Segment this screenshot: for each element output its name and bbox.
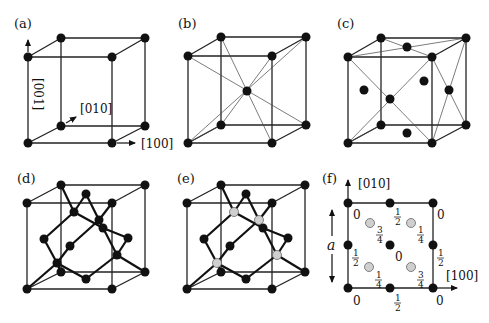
svg-text:1: 1 <box>353 248 359 258</box>
lattice-constant-label: a <box>327 237 335 253</box>
frac-half-top: 1 2 <box>394 207 401 227</box>
panel-label-c: (c) <box>337 16 354 31</box>
axis-label-001: [001] <box>31 78 45 110</box>
panel-c-fcc: (c) <box>337 16 471 148</box>
axis-label-100: [100] <box>141 137 173 151</box>
frac-quarter-bl: 1 4 <box>375 270 382 290</box>
frac-half-left: 1 2 <box>352 248 359 268</box>
svg-text:4: 4 <box>376 280 382 290</box>
svg-text:3: 3 <box>418 270 424 280</box>
panel-b-bcc: (b) <box>178 16 311 148</box>
crystal-structures-figure: (a) [010] [100] [001] (b) <box>0 0 489 323</box>
panel-label-d: (d) <box>17 171 35 186</box>
panel-label-f: (f) <box>322 171 337 186</box>
svg-text:1: 1 <box>438 248 444 258</box>
axis-label-100-f: [100] <box>446 269 478 283</box>
svg-text:0: 0 <box>353 208 361 222</box>
frac-three-quarter-tl: 3 4 <box>376 225 383 245</box>
axis-label-010: [010] <box>80 102 112 116</box>
svg-text:0: 0 <box>395 250 403 264</box>
panel-label-a: (a) <box>14 16 32 31</box>
panel-e-zincblende: (e) <box>177 171 310 294</box>
svg-text:1: 1 <box>395 293 401 303</box>
frac-half-bottom: 1 2 <box>394 293 401 313</box>
body-center-atom <box>243 87 252 96</box>
panel-a-simple-cubic: (a) [010] [100] [001] <box>14 16 173 151</box>
frac-half-right: 1 2 <box>437 248 444 268</box>
axis-label-010-f: [010] <box>358 177 390 191</box>
svg-text:1: 1 <box>376 270 382 280</box>
atoms-c <box>344 34 471 148</box>
svg-text:1: 1 <box>418 225 424 235</box>
svg-text:2: 2 <box>438 258 444 268</box>
svg-text:4: 4 <box>418 235 424 245</box>
svg-text:0: 0 <box>437 208 445 222</box>
svg-text:0: 0 <box>353 294 361 308</box>
svg-text:3: 3 <box>377 225 383 235</box>
svg-text:4: 4 <box>418 280 424 290</box>
panel-label-b: (b) <box>178 16 196 31</box>
svg-text:1: 1 <box>395 207 401 217</box>
frac-three-quarter-br: 3 4 <box>417 270 424 290</box>
svg-text:0: 0 <box>436 294 444 308</box>
frac-quarter-tr: 1 4 <box>417 225 424 245</box>
panel-label-e: (e) <box>177 171 195 186</box>
svg-text:4: 4 <box>377 235 383 245</box>
axis-010-arrow <box>66 117 76 123</box>
svg-text:2: 2 <box>353 258 359 268</box>
svg-text:2: 2 <box>395 217 401 227</box>
svg-text:2: 2 <box>395 303 401 313</box>
panel-d-diamond: (d) <box>17 171 150 294</box>
panel-f-projection: (f) [010] [100] a <box>322 171 478 313</box>
